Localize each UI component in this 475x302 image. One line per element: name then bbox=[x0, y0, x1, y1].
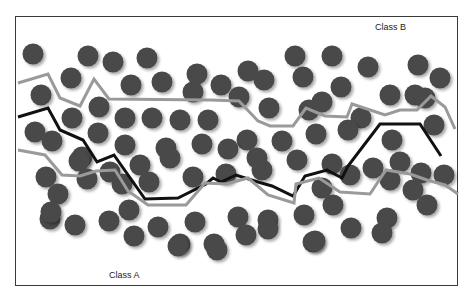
data-point-circle bbox=[305, 231, 326, 252]
data-point-circle bbox=[207, 240, 228, 261]
data-point-circle bbox=[115, 135, 136, 156]
data-point-circle bbox=[372, 223, 393, 244]
data-point-circle bbox=[417, 195, 438, 216]
data-point-circle bbox=[382, 130, 403, 151]
data-point-circle bbox=[139, 172, 160, 193]
data-point-circle bbox=[192, 134, 213, 155]
data-point-circle bbox=[211, 75, 232, 96]
data-point-circle bbox=[322, 46, 343, 67]
data-point-circle bbox=[65, 215, 86, 236]
data-point-circle bbox=[312, 92, 333, 113]
data-point-circle bbox=[218, 139, 239, 160]
data-point-circle bbox=[287, 150, 308, 171]
data-point-circle bbox=[254, 70, 275, 91]
data-point-circle bbox=[285, 46, 306, 67]
data-point-circle bbox=[23, 44, 44, 65]
data-points bbox=[23, 44, 455, 261]
data-point-circle bbox=[363, 158, 384, 179]
class-scatter-diagram bbox=[0, 0, 475, 302]
data-point-circle bbox=[148, 217, 169, 238]
data-point-circle bbox=[229, 87, 250, 108]
data-point-circle bbox=[152, 72, 173, 93]
data-point-circle bbox=[31, 85, 52, 106]
data-point-circle bbox=[62, 108, 83, 129]
data-point-circle bbox=[331, 77, 352, 98]
class-a-label: Class A bbox=[109, 270, 140, 280]
data-point-circle bbox=[61, 68, 82, 89]
data-point-circle bbox=[48, 184, 69, 205]
data-point-circle bbox=[160, 148, 181, 169]
data-point-circle bbox=[390, 152, 411, 173]
data-point-circle bbox=[124, 226, 145, 247]
data-point-circle bbox=[99, 211, 120, 232]
data-point-circle bbox=[42, 131, 63, 152]
data-point-circle bbox=[115, 108, 136, 129]
data-point-circle bbox=[258, 219, 279, 240]
data-point-circle bbox=[228, 207, 249, 228]
data-point-circle bbox=[358, 57, 379, 78]
data-point-circle bbox=[170, 110, 191, 131]
data-point-circle bbox=[142, 108, 163, 129]
data-point-circle bbox=[294, 205, 315, 226]
data-point-circle bbox=[36, 167, 57, 188]
data-point-circle bbox=[236, 225, 257, 246]
data-point-circle bbox=[187, 64, 208, 85]
data-point-circle bbox=[183, 167, 204, 188]
class-b-label: Class B bbox=[375, 22, 406, 32]
data-point-circle bbox=[69, 151, 90, 172]
data-point-circle bbox=[41, 202, 62, 223]
data-point-circle bbox=[121, 75, 142, 96]
data-point-circle bbox=[78, 46, 99, 67]
data-point-circle bbox=[185, 212, 206, 233]
data-point-circle bbox=[103, 52, 124, 73]
data-point-circle bbox=[198, 110, 219, 131]
data-point-circle bbox=[293, 67, 314, 88]
data-point-circle bbox=[88, 123, 109, 144]
data-point-circle bbox=[341, 218, 362, 239]
data-point-circle bbox=[89, 97, 110, 118]
data-point-circle bbox=[272, 131, 293, 152]
data-point-circle bbox=[323, 195, 344, 216]
data-point-circle bbox=[338, 120, 359, 141]
data-point-circle bbox=[237, 130, 258, 151]
data-point-circle bbox=[252, 160, 273, 181]
data-point-circle bbox=[380, 85, 401, 106]
data-point-circle bbox=[430, 68, 451, 89]
data-point-circle bbox=[259, 98, 280, 119]
data-point-circle bbox=[119, 200, 140, 221]
data-point-circle bbox=[137, 48, 158, 69]
data-point-circle bbox=[168, 236, 189, 257]
data-point-circle bbox=[306, 124, 327, 145]
data-point-circle bbox=[408, 55, 429, 76]
